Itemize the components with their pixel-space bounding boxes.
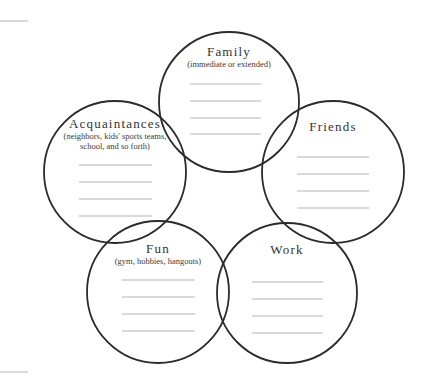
family-subtitle: (immediate or extended) (159, 59, 299, 69)
fun-title: Fun (88, 242, 228, 256)
fun-subtitle: (gym, hobbies, hangouts) (88, 256, 228, 266)
friends-title: Friends (263, 120, 403, 134)
acquaintances-subtitle-line-2: school, and so forth) (40, 141, 190, 151)
fun-label-group: Fun (gym, hobbies, hangouts) (88, 242, 228, 266)
family-label-group: Family (immediate or extended) (159, 45, 299, 69)
acquaintances-subtitle-line-1: (neighbors, kids' sports teams, (40, 131, 190, 141)
social-circles-diagram: Family (immediate or extended) Friends A… (0, 0, 426, 387)
acquaintances-label-group: Acquaintances (neighbors, kids' sports t… (40, 117, 190, 151)
work-label-group: Work (217, 243, 357, 257)
family-title: Family (159, 45, 299, 59)
acquaintances-title: Acquaintances (40, 117, 190, 131)
work-title: Work (217, 243, 357, 257)
friends-label-group: Friends (263, 120, 403, 134)
